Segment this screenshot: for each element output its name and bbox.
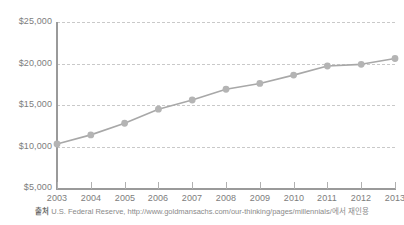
data-point-marker xyxy=(358,61,365,68)
data-point-marker xyxy=(189,97,196,104)
data-point-marker xyxy=(392,55,399,62)
source-note: 출처 U.S. Federal Reserve, http://www.gold… xyxy=(0,207,404,216)
data-point-marker xyxy=(87,131,94,138)
series-line xyxy=(57,59,395,144)
data-point-marker xyxy=(256,80,263,87)
source-label: 출처 xyxy=(35,207,49,216)
data-point-marker xyxy=(324,63,331,70)
data-point-marker xyxy=(290,72,297,79)
data-point-marker xyxy=(121,120,128,127)
source-text: U.S. Federal Reserve, http://www.goldman… xyxy=(49,207,369,216)
data-point-marker xyxy=(223,86,230,93)
data-point-marker xyxy=(155,106,162,113)
series-markers-group xyxy=(54,55,399,147)
chart-container: $5,000$10,000$15,000$20,000$25,000 20032… xyxy=(0,0,404,225)
line-series xyxy=(0,0,404,225)
data-point-marker xyxy=(54,141,61,148)
